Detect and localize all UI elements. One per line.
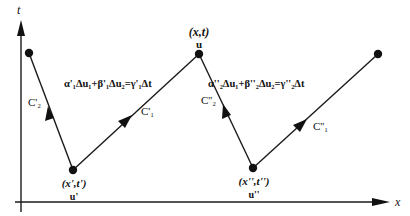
point-x-t [195, 50, 203, 58]
t-axis: t [17, 3, 25, 212]
curve-c2-prime [29, 53, 73, 170]
point-upper-left [25, 49, 33, 57]
equation-1: α'₁Δu₁+β'₁Δu₂=γ'₁Δt [64, 78, 152, 89]
point-x-prime [69, 166, 77, 174]
point-x-prime-value: u' [70, 191, 79, 202]
point-x-dprime [249, 164, 257, 172]
point-x-prime-label: (x',t') [62, 177, 87, 190]
point-x-t-label: (x,t) [189, 25, 209, 39]
curve-c1-dprime [253, 54, 378, 168]
curve-c1-prime [73, 54, 199, 170]
point-x-dprime-value: u'' [248, 189, 259, 200]
t-axis-arrow-icon [17, 20, 25, 36]
x-axis-arrow-icon [372, 198, 390, 206]
curve-c2-dprime-label: C''₂ [201, 94, 216, 106]
t-axis-label: t [17, 3, 21, 17]
point-x-t-value: u [196, 38, 202, 50]
point-upper-right [374, 50, 382, 58]
curve-c1-dprime-label: C''₁ [313, 120, 328, 132]
curve-c2-dprime-arrow-icon [222, 104, 231, 119]
curve-c2-prime-label: C'₂ [28, 96, 41, 108]
point-x-dprime-label: (x'',t'') [239, 175, 270, 188]
equation-2: α''₂Δu₁+β''₂Δu₂=γ''₂Δt [208, 78, 305, 89]
curve-c1-prime-label: C'₁ [141, 105, 154, 117]
characteristics-diagram: t x (x,t) u (x',t') u' (x'',t'') u'' C'₂… [0, 0, 410, 216]
x-axis-label: x [394, 195, 401, 209]
